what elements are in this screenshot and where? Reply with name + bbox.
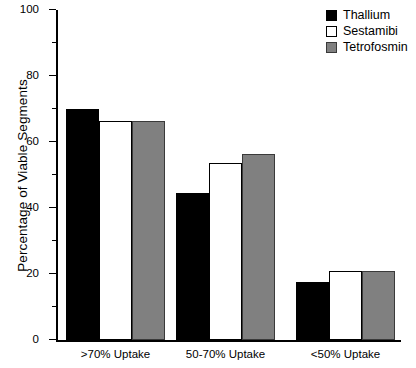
chart-legend: ThalliumSestamibiTetrofosmin (326, 9, 408, 54)
y-tick-label: 80 (26, 69, 39, 81)
bar-thallium (66, 109, 99, 340)
bar-tetrofosmin (132, 121, 165, 340)
bar-tetrofosmin (242, 154, 275, 340)
bar-sestamibi (209, 163, 242, 340)
legend-label: Sestamibi (343, 25, 398, 38)
y-tick-major: 40 (49, 207, 56, 209)
bar-thallium (296, 282, 329, 340)
legend-label: Thallium (343, 9, 390, 22)
bar-sestamibi (329, 271, 362, 340)
bar-series-group (56, 10, 400, 340)
x-axis-label: >70% Uptake (81, 348, 150, 360)
legend-item-thallium: Thallium (326, 9, 408, 22)
y-tick-major: 20 (49, 273, 56, 275)
y-tick-label: 60 (26, 135, 39, 147)
legend-label: Tetrofosmin (343, 41, 408, 54)
bar-chart-figure: Percentage of Viable Segments 0204060801… (0, 0, 416, 368)
y-tick-label: 40 (26, 201, 39, 213)
x-axis-label: 50-70% Uptake (186, 348, 265, 360)
bar-thallium (176, 193, 209, 340)
legend-swatch-thallium (326, 10, 337, 21)
plot-area: 020406080100 (56, 10, 400, 340)
bar-sestamibi (99, 121, 132, 340)
y-tick-major: 100 (49, 9, 56, 11)
y-tick-label: 0 (33, 333, 39, 345)
legend-swatch-tetrofosmin (326, 42, 337, 53)
y-tick-major: 60 (49, 141, 56, 143)
y-tick-major: 0 (49, 339, 56, 341)
x-axis-line (56, 340, 401, 342)
legend-item-sestamibi: Sestamibi (326, 25, 408, 38)
legend-item-tetrofosmin: Tetrofosmin (326, 41, 408, 54)
legend-swatch-sestamibi (326, 26, 337, 37)
x-axis-label: <50% Uptake (311, 348, 380, 360)
y-tick-label: 100 (20, 3, 39, 15)
bar-tetrofosmin (362, 271, 395, 340)
y-tick-major: 80 (49, 75, 56, 77)
y-tick-label: 20 (26, 267, 39, 279)
